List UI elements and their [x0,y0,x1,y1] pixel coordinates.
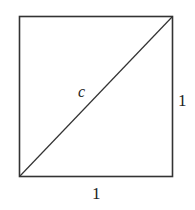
bottom-side-label: 1 [92,184,101,203]
diagonal-line [20,17,173,177]
diagonal-label: c [78,83,85,100]
diagram-canvas: c 1 1 [0,0,195,210]
right-side-label: 1 [178,91,187,110]
